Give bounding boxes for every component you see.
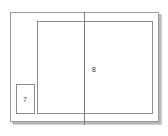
small-region-label: 7 (23, 96, 27, 103)
main-region-label: 8 (92, 66, 96, 73)
spine-divider-line (84, 12, 85, 125)
